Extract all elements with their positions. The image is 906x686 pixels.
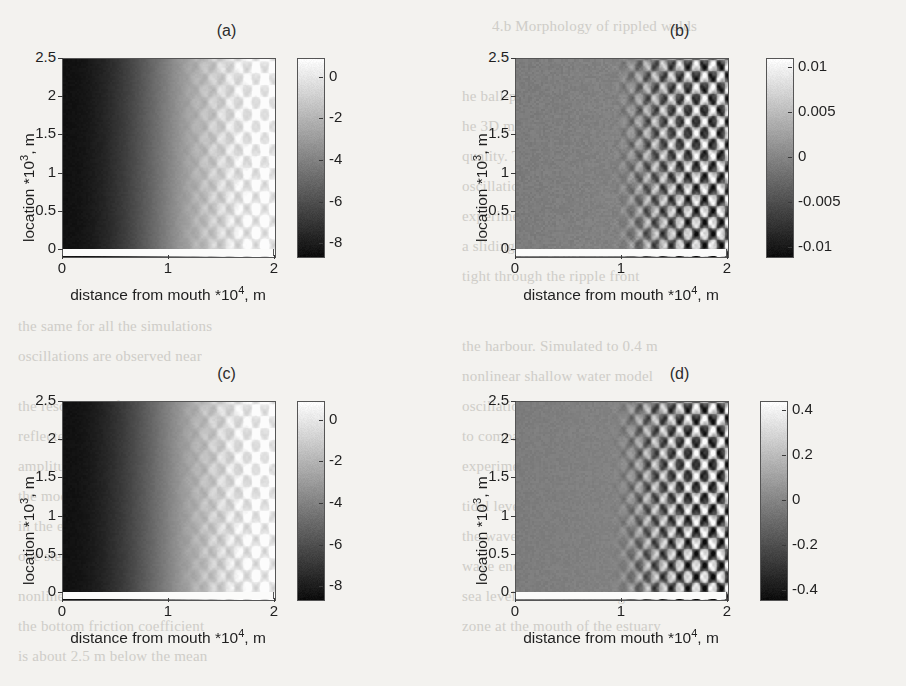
x-tick-label: 1 xyxy=(601,259,641,276)
colorbar-tick-mark xyxy=(319,586,323,587)
y-axis-label: location *103, m xyxy=(471,133,491,242)
colorbar-tick-label: 0 xyxy=(329,410,337,427)
x-tick-label: 2 xyxy=(707,602,747,619)
colorbar-c xyxy=(297,401,325,601)
x-tick-mark xyxy=(274,255,275,259)
colorbar-tick-mark xyxy=(782,590,786,591)
x-tick-mark xyxy=(274,598,275,602)
y-tick-mark xyxy=(58,134,63,135)
y-tick-label: 2 xyxy=(463,429,509,446)
x-axis-label-text: distance from mouth *10 xyxy=(70,629,238,646)
x-tick-mark xyxy=(168,598,169,602)
x-tick-mark xyxy=(168,255,169,259)
colorbar-tick-mark xyxy=(788,112,792,113)
colorbar-tick-label: -0.005 xyxy=(798,192,841,209)
heatmap-canvas-b xyxy=(516,59,728,257)
y-axis-label: location *103, m xyxy=(471,476,491,585)
x-tick-mark xyxy=(621,255,622,259)
colorbar-tick-label: -2 xyxy=(329,451,342,468)
y-axis-label-text: location *10 xyxy=(20,504,37,585)
colorbar-tick-mark xyxy=(782,455,786,456)
y-tick-mark xyxy=(58,554,63,555)
x-tick-mark xyxy=(515,598,516,602)
colorbar-tick-mark xyxy=(788,247,792,248)
y-tick-mark xyxy=(58,173,63,174)
y-tick-mark xyxy=(58,401,63,402)
y-axis-label-text: location *10 xyxy=(473,161,490,242)
x-tick-label: 2 xyxy=(254,602,294,619)
colorbar-tick-label: -4 xyxy=(329,493,342,510)
y-tick-mark xyxy=(511,401,516,402)
heatmap-plot-b xyxy=(515,58,729,258)
y-tick-mark xyxy=(511,439,516,440)
y-tick-mark xyxy=(58,249,63,250)
x-axis-label-text: distance from mouth *10 xyxy=(523,286,691,303)
panel-a: (a)2.521.510.50012location *103, mdistan… xyxy=(0,0,453,343)
y-tick-mark xyxy=(58,96,63,97)
panel-b: (b)2.521.510.50012location *103, mdistan… xyxy=(453,0,906,343)
x-axis-label-text: distance from mouth *10 xyxy=(70,286,238,303)
colorbar-tick-label: 0.4 xyxy=(792,400,813,417)
y-tick-mark xyxy=(58,477,63,478)
heatmap-plot-d xyxy=(515,401,729,601)
colorbar-tick-label: -0.2 xyxy=(792,535,818,552)
y-tick-mark xyxy=(511,211,516,212)
x-tick-mark xyxy=(727,255,728,259)
y-tick-label: 2.5 xyxy=(463,48,509,65)
y-tick-mark xyxy=(58,516,63,517)
panel-title-d: (d) xyxy=(453,365,906,383)
y-axis-label-exponent: 3 xyxy=(471,498,483,504)
y-tick-label: 2.5 xyxy=(10,391,56,408)
y-axis-label-unit: , m xyxy=(20,476,37,498)
colorbar-tick-label: -2 xyxy=(329,108,342,125)
y-tick-mark xyxy=(511,173,516,174)
y-tick-mark xyxy=(511,554,516,555)
colorbar-tick-label: -0.01 xyxy=(798,237,832,254)
panel-title-c: (c) xyxy=(0,365,453,383)
colorbar-tick-mark xyxy=(319,545,323,546)
colorbar-tick-mark xyxy=(319,503,323,504)
colorbar-tick-label: 0 xyxy=(798,147,806,164)
y-axis-label: location *103, m xyxy=(18,133,38,242)
y-tick-label: 2 xyxy=(463,86,509,103)
y-axis-label-exponent: 3 xyxy=(18,498,30,504)
x-axis-label-unit: , m xyxy=(697,629,719,646)
x-axis-label-unit: , m xyxy=(244,286,266,303)
y-tick-mark xyxy=(511,58,516,59)
x-tick-mark xyxy=(515,255,516,259)
x-tick-label: 2 xyxy=(707,259,747,276)
colorbar-tick-mark xyxy=(319,243,323,244)
colorbar-tick-label: -8 xyxy=(329,576,342,593)
colorbar-d xyxy=(760,401,788,601)
heatmap-plot-c xyxy=(62,401,276,601)
heatmap-canvas-a xyxy=(63,59,275,257)
four-panel-figure: (a)2.521.510.50012location *103, mdistan… xyxy=(0,0,906,686)
colorbar-tick-label: -0.4 xyxy=(792,580,818,597)
y-axis-label-unit: , m xyxy=(473,133,490,155)
y-axis-label-exponent: 3 xyxy=(18,155,30,161)
x-tick-label: 0 xyxy=(42,602,82,619)
y-axis-label-text: location *10 xyxy=(20,161,37,242)
x-axis-label: distance from mouth *104, m xyxy=(465,284,777,304)
x-axis-label: distance from mouth *104, m xyxy=(12,284,324,304)
y-axis-label: location *103, m xyxy=(18,476,38,585)
colorbar-canvas-a xyxy=(298,59,324,257)
y-tick-mark xyxy=(511,134,516,135)
y-tick-label: 2.5 xyxy=(463,391,509,408)
x-tick-label: 0 xyxy=(495,602,535,619)
x-tick-mark xyxy=(62,598,63,602)
heatmap-plot-a xyxy=(62,58,276,258)
x-axis-label: distance from mouth *104, m xyxy=(465,627,777,647)
y-axis-label-unit: , m xyxy=(20,133,37,155)
y-tick-mark xyxy=(58,211,63,212)
colorbar-tick-mark xyxy=(788,202,792,203)
colorbar-tick-mark xyxy=(319,77,323,78)
colorbar-b xyxy=(766,58,794,258)
heatmap-canvas-d xyxy=(516,402,728,600)
x-tick-mark xyxy=(621,598,622,602)
panel-title-b: (b) xyxy=(453,22,906,40)
colorbar-tick-mark xyxy=(319,160,323,161)
colorbar-tick-mark xyxy=(319,461,323,462)
colorbar-tick-label: 0 xyxy=(792,490,800,507)
panel-title-a: (a) xyxy=(0,22,453,40)
